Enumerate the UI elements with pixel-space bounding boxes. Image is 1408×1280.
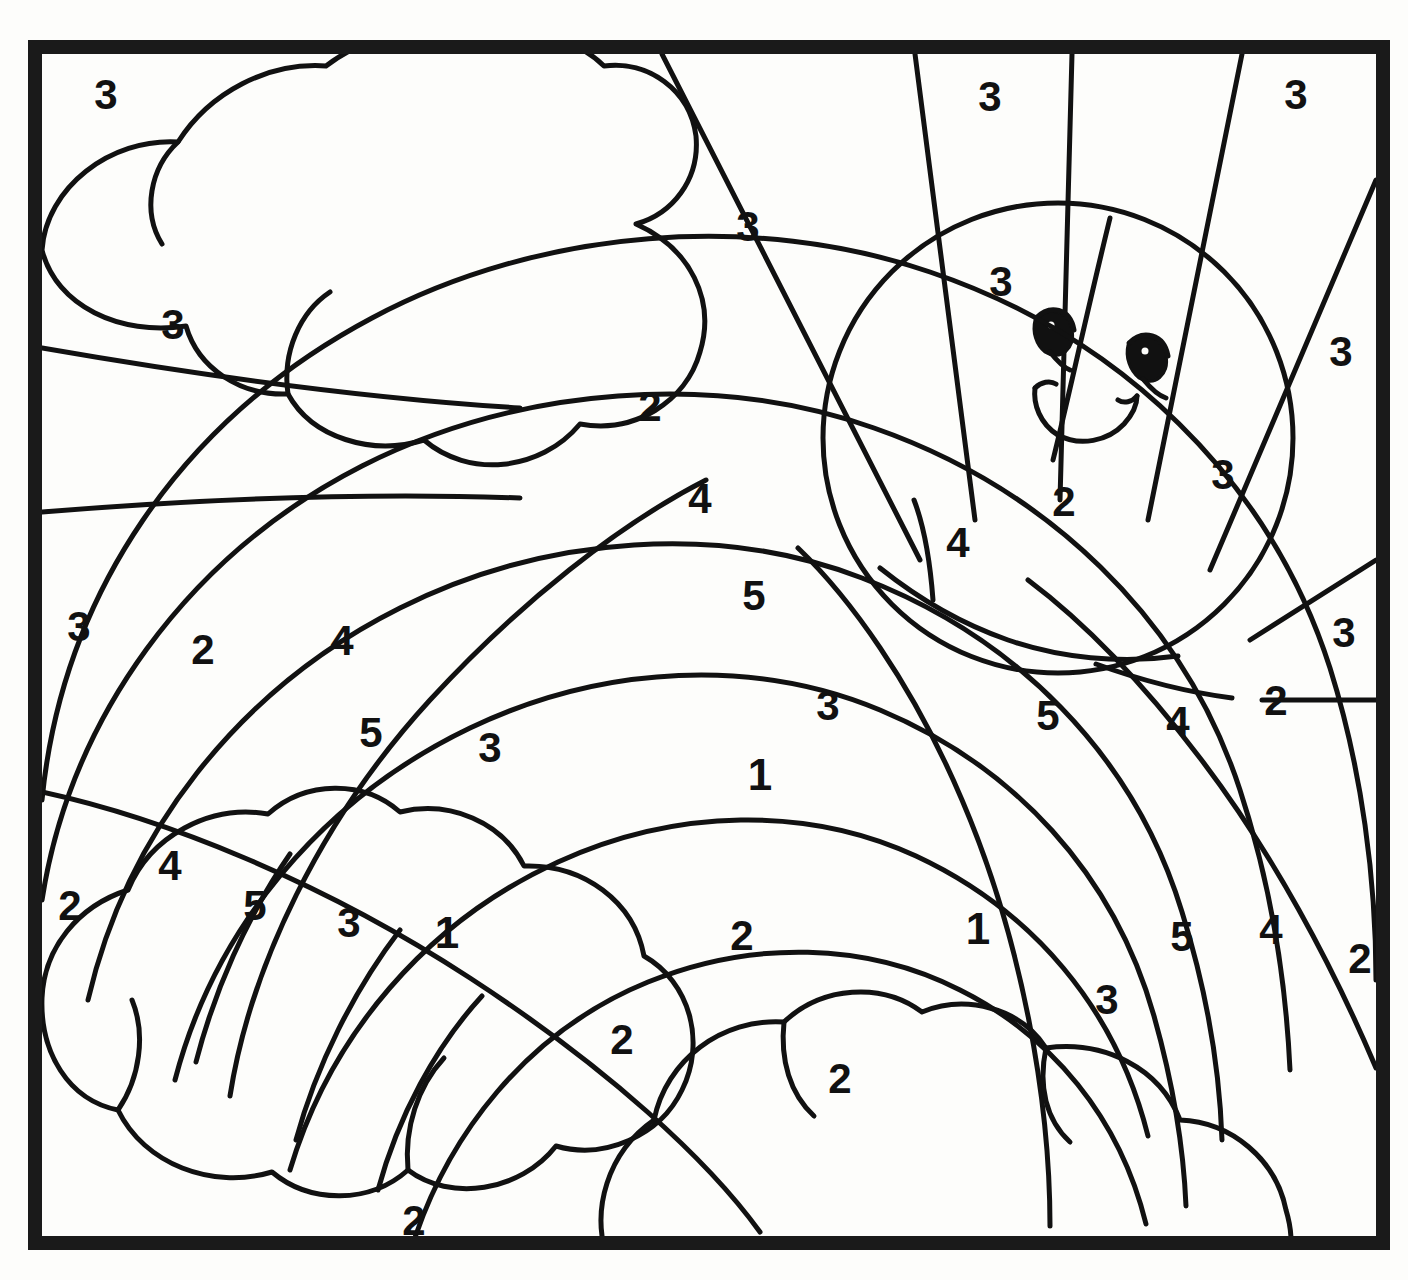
region-number-rainbow-band-5-top-inner: 1 [748, 753, 772, 797]
region-number-rainbow-band-2-right: 4 [1166, 701, 1189, 743]
region-number-rainbow-band-4-lower-right: 3 [1095, 979, 1118, 1021]
region-number-rainbow-band-2-right-of-sun: 4 [946, 522, 969, 564]
region-number-sky-bottom-below-cloud: 2 [402, 1200, 425, 1242]
region-number-sky-lower-right-corner: 2 [1348, 938, 1371, 980]
region-number-rainbow-band-outer-over-sun: 2 [1052, 481, 1075, 523]
region-number-rainbow-band-3-lower-right: 5 [1170, 916, 1193, 958]
region-number-rainbow-band-2-lower-right: 4 [1259, 909, 1282, 951]
region-number-sun-ray-gap-upper-right: 3 [1284, 74, 1307, 116]
region-number-rainbow-band-outer-top: 2 [638, 386, 661, 428]
region-number-sky-far-right-mid: 3 [1332, 612, 1355, 654]
region-number-rainbow-band-5-lower-left: 1 [435, 911, 459, 955]
region-number-sun-face-lower-right: 3 [1211, 454, 1234, 496]
region-number-rainbow-inner-lower-center: 2 [828, 1058, 851, 1100]
region-number-rainbow-band-3-right: 5 [1036, 695, 1059, 737]
region-number-rainbow-band-4-lower-left: 3 [337, 902, 360, 944]
region-number-rainbow-band-3-left: 5 [359, 712, 382, 754]
region-number-rainbow-band-3-lower-left: 5 [243, 885, 266, 927]
region-number-sky-lower-left-corner: 2 [58, 885, 81, 927]
coloring-page: 33333332442353243354253124531215423222 [0, 0, 1408, 1280]
region-number-rainbow-inner-center: 2 [730, 915, 753, 957]
region-number-rainbow-band-2-lower-left: 4 [158, 845, 181, 887]
region-number-sky-left-below-cloud: 3 [161, 304, 184, 346]
region-number-sun-ray-gap-upper-left: 3 [978, 76, 1001, 118]
region-number-sun-face-upper-left: 3 [989, 261, 1012, 303]
region-number-rainbow-band-4-upper-right: 3 [816, 685, 839, 727]
region-number-rainbow-inner-lower-left: 2 [610, 1019, 633, 1061]
region-number-rainbow-band-2-left: 4 [330, 620, 353, 662]
region-number-sky-between-cloud-and-rays: 3 [736, 206, 759, 248]
region-number-rainbow-band-outer-left: 2 [191, 629, 214, 671]
region-number-sky-upper-left: 3 [94, 74, 117, 116]
region-number-rainbow-band-3-top: 5 [742, 575, 765, 617]
region-number-rainbow-band-5-lower-right: 1 [966, 907, 990, 951]
region-number-rainbow-band-2-top: 4 [688, 478, 711, 520]
region-number-sky-far-left-mid: 3 [67, 606, 90, 648]
region-number-sun-ray-gap-right: 3 [1329, 331, 1352, 373]
region-number-rainbow-band-outer-right: 2 [1264, 680, 1287, 722]
region-number-rainbow-band-4-left: 3 [478, 727, 501, 769]
